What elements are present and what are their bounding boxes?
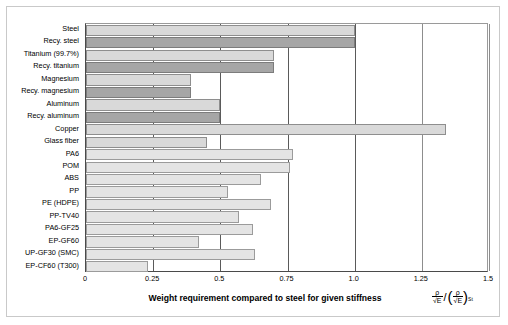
bar-pp-tv40 [86, 211, 239, 222]
bar-row [86, 261, 489, 272]
bar-ep-gf60 [86, 236, 199, 247]
bar-row [86, 112, 489, 123]
bar-chart: SteelRecy. steelTitanium (99.7%)Recy. ti… [0, 0, 508, 325]
y-label-magnesium: Magnesium [41, 73, 79, 85]
y-label-abs: ABS [64, 172, 79, 184]
bar-magnesium [86, 74, 191, 85]
x-tick-1.0: 1.0 [349, 274, 359, 283]
y-label-glass-fiber: Glass fiber [44, 135, 79, 147]
formula-rho-1: ρ [432, 289, 443, 296]
y-label-up-gf30-smc: UP-GF30 (SMC) [25, 247, 79, 259]
bar-row [86, 211, 489, 222]
x-tick-0.25: 0.25 [145, 274, 159, 283]
y-label-copper: Copper [55, 123, 79, 135]
formula-numerator: ρ √E [432, 289, 443, 304]
bar-row [86, 149, 489, 160]
bar-steel [86, 25, 355, 36]
bar-copper [86, 124, 446, 135]
bar-row [86, 174, 489, 185]
y-label-titanium-99-7: Titanium (99.7%) [24, 48, 79, 60]
y-label-pom: POM [62, 160, 79, 172]
bar-up-gf30-smc [86, 249, 255, 260]
bar-row [86, 62, 489, 73]
y-label-pa6-gf25: PA6-GF25 [45, 222, 79, 234]
y-label-pa6: PA6 [66, 148, 79, 160]
bar-row [86, 74, 489, 85]
formula-rho-2: ρ [453, 289, 464, 296]
bar-titanium-99-7 [86, 50, 274, 61]
plot-area [85, 23, 488, 272]
formula-sqrtE-1: √E [432, 296, 443, 304]
bar-pa6-gf25 [86, 224, 253, 235]
bar-abs [86, 174, 261, 185]
bar-aluminum [86, 99, 220, 110]
axis-formula: ρ √E /( ρ √E )St [432, 288, 498, 314]
bar-row [86, 37, 489, 48]
bar-row [86, 137, 489, 148]
formula-sqrtE-2: √E [453, 296, 464, 304]
bar-glass-fiber [86, 137, 207, 148]
x-axis-tick-labels: 00.250.50.751.01.251.5 [0, 274, 508, 286]
bar-row [86, 124, 489, 135]
x-tick-1.25: 1.25 [414, 274, 428, 283]
bar-recy-steel [86, 37, 355, 48]
bar-rows [86, 24, 487, 271]
bar-recy-magnesium [86, 87, 191, 98]
y-label-pp-tv40: PP-TV40 [49, 210, 79, 222]
x-tick-1.5: 1.5 [483, 274, 493, 283]
y-label-recy-magnesium: Recy. magnesium [21, 85, 79, 97]
formula-denominator: ρ √E [453, 289, 464, 304]
y-label-aluminum: Aluminum [47, 98, 79, 110]
bar-row [86, 99, 489, 110]
y-axis-category-labels: SteelRecy. steelTitanium (99.7%)Recy. ti… [0, 23, 82, 272]
bar-row [86, 50, 489, 61]
bar-row [86, 224, 489, 235]
y-label-recy-titanium: Recy. titanium [33, 60, 79, 72]
bar-ep-cf60-t300 [86, 261, 148, 272]
bar-row [86, 162, 489, 173]
y-label-recy-steel: Recy. steel [43, 35, 79, 47]
x-tick-0.75: 0.75 [279, 274, 293, 283]
bar-row [86, 249, 489, 260]
bar-pa6 [86, 149, 293, 160]
gridline-1.5 [489, 24, 490, 271]
y-label-recy-aluminum: Recy. aluminum [27, 110, 79, 122]
formula-subscript-st: St [468, 296, 473, 302]
bar-row [86, 199, 489, 210]
y-label-ep-cf60-t300: EP-CF60 (T300) [25, 260, 79, 272]
x-axis-title: Weight requirement compared to steel for… [85, 293, 445, 303]
bar-row [86, 25, 489, 36]
bar-recy-titanium [86, 62, 274, 73]
y-label-pp: PP [69, 185, 79, 197]
bar-pom [86, 162, 290, 173]
bar-row [86, 87, 489, 98]
x-tick-0.5: 0.5 [214, 274, 224, 283]
y-label-steel: Steel [62, 23, 79, 35]
x-tick-0: 0 [83, 274, 87, 283]
y-label-ep-gf60: EP-GF60 [49, 235, 79, 247]
bar-recy-aluminum [86, 112, 220, 123]
bar-pe-hdpe [86, 199, 271, 210]
bar-row [86, 236, 489, 247]
bar-pp [86, 186, 228, 197]
y-label-pe-hdpe: PE (HDPE) [42, 197, 79, 209]
bar-row [86, 186, 489, 197]
